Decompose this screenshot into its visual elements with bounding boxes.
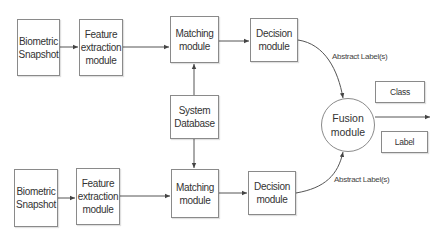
bottom-biometric-snapshot-label: Biometric Snapshot: [16, 185, 56, 211]
bottom-feature-extraction-label: Feature extraction module: [78, 177, 118, 216]
bottom-feature-extraction-box: Feature extraction module: [76, 168, 120, 225]
connector-lines: [0, 0, 441, 237]
label-output-label: Label: [395, 136, 414, 149]
system-database-label: System Database: [174, 104, 214, 130]
bottom-biometric-snapshot-box: Biometric Snapshot: [14, 169, 58, 227]
class-output-box: Class: [375, 81, 425, 103]
top-feature-extraction-box: Feature extraction module: [79, 19, 123, 76]
top-biometric-snapshot-label: Biometric Snapshot: [19, 35, 59, 61]
top-decision-module-label: Decision module: [256, 27, 292, 53]
top-feature-extraction-label: Feature extraction module: [81, 28, 121, 67]
top-abstract-label: Abstract Label(s): [332, 52, 387, 61]
bottom-decision-module-label: Decision module: [254, 180, 290, 206]
bottom-decision-module-box: Decision module: [248, 171, 296, 215]
top-decision-module-box: Decision module: [250, 18, 298, 62]
label-output-box: Label: [381, 131, 428, 153]
class-output-label: Class: [390, 86, 410, 99]
top-matching-module-label: Matching module: [175, 27, 213, 53]
top-matching-module-box: Matching module: [170, 16, 219, 63]
bottom-abstract-label: Abstract Label(s): [334, 175, 389, 184]
bottom-matching-module-label: Matching module: [176, 181, 214, 207]
fusion-module-circle: Fusion module: [321, 98, 375, 152]
system-database-box: System Database: [170, 95, 219, 139]
bottom-matching-module-box: Matching module: [171, 169, 219, 218]
fusion-module-label: Fusion module: [331, 111, 365, 139]
top-biometric-snapshot-box: Biometric Snapshot: [17, 19, 60, 76]
